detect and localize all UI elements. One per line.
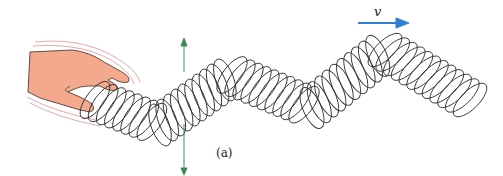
figure-caption: (a) [216,146,233,160]
spring-wave-illustration [0,0,503,176]
displacement-arrow-icon [181,38,187,175]
velocity-label: v [374,4,381,19]
velocity-arrow-icon [358,18,409,28]
spring-coils [75,28,492,149]
figure: v (a) [0,0,503,176]
